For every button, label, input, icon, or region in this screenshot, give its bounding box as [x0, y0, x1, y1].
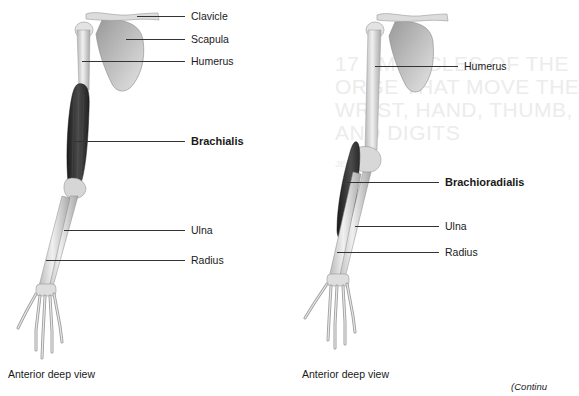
leader-line-clavicle	[137, 16, 185, 17]
leader-line-ulna	[355, 226, 439, 227]
leader-line-brachioradialis	[347, 182, 439, 183]
label-humerus: Humerus	[464, 60, 507, 72]
figure-caption-left: Anterior deep view	[8, 368, 95, 380]
label-brachialis: Brachialis	[191, 135, 244, 147]
figure-left-brachialis: Clavicle Scapula Humerus Brachialis Ulna…	[0, 0, 273, 396]
figure-right-brachioradialis: Humerus Brachioradialis Ulna Radius Ante…	[273, 0, 547, 396]
label-brachioradialis: Brachioradialis	[445, 176, 524, 188]
leader-line-humerus	[375, 66, 458, 67]
leader-line-radius	[46, 260, 185, 261]
label-ulna: Ulna	[445, 220, 467, 232]
leader-line-ulna	[64, 230, 185, 231]
leader-line-humerus	[82, 61, 185, 62]
leader-line-radius	[337, 252, 439, 253]
label-clavicle: Clavicle	[191, 10, 228, 22]
leader-line-scapula	[126, 39, 185, 40]
label-radius: Radius	[445, 246, 478, 258]
label-radius: Radius	[191, 254, 224, 266]
label-ulna: Ulna	[191, 224, 213, 236]
leader-line-brachialis	[74, 141, 185, 142]
label-humerus: Humerus	[191, 55, 234, 67]
continued-note: (Continu	[511, 381, 547, 392]
label-scapula: Scapula	[191, 33, 229, 45]
figure-caption-right: Anterior deep view	[302, 368, 389, 380]
